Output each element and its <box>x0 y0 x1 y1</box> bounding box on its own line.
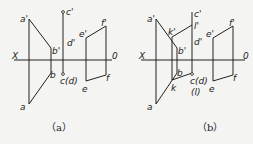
label-f-prime-a: f' <box>101 18 107 28</box>
label-a-prime-b: a' <box>147 14 155 24</box>
label-b-a: b <box>50 70 56 80</box>
panel-b: X 0 a' a k' k b' b c' l' d' c(d) (l) e' … <box>138 9 249 133</box>
label-cd-a: c(d) <box>60 76 78 86</box>
projection-diagram: X 0 a' a b' b c' d' c(d) e' e f' f （a） X… <box>0 0 253 144</box>
line-a-prime-b-prime <box>29 19 51 48</box>
label-f-b: f <box>233 73 238 83</box>
caption-b: （b） <box>197 122 223 133</box>
label-k-b: k <box>171 83 177 93</box>
label-b-b: b <box>177 68 183 78</box>
point-cd <box>62 73 65 76</box>
label-a-a: a <box>20 102 26 112</box>
diagram-svg: X 0 a' a b' b c' d' c(d) e' e f' f （a） X… <box>0 0 253 144</box>
point-c-prime <box>62 11 65 14</box>
label-e-a: e <box>82 84 88 94</box>
line-ab <box>29 73 51 104</box>
quad-ef-b <box>213 26 233 81</box>
quad-ef <box>86 26 106 81</box>
label-k-prime-b: k' <box>168 27 176 37</box>
axis-0-label-a: 0 <box>112 51 118 61</box>
axis-x-label-a: X <box>11 51 19 61</box>
axis-0-label-b: 0 <box>243 51 249 61</box>
label-b-prime-a: b' <box>52 46 60 56</box>
label-l-b: (l) <box>191 87 201 97</box>
label-d-prime-b: d' <box>194 37 202 47</box>
label-e-b: e <box>209 84 215 94</box>
label-c-prime-a: c' <box>66 7 73 17</box>
label-l-prime-b: l' <box>194 21 199 31</box>
label-f-prime-b: f' <box>229 18 235 28</box>
axis-x-label-b: X <box>138 51 146 61</box>
label-d-prime-a: d' <box>67 38 75 48</box>
label-e-prime-b: e' <box>206 29 214 39</box>
point-cd-b <box>191 73 194 76</box>
label-f-a: f <box>106 73 111 83</box>
panel-a: X 0 a' a b' b c' d' c(d) e' e f' f （a） <box>11 7 118 133</box>
label-c-prime-b: c' <box>194 9 201 19</box>
caption-a: （a） <box>46 122 72 133</box>
label-a-prime-a: a' <box>20 14 28 24</box>
label-a-b: a <box>147 102 153 112</box>
label-cd-b: c(d) <box>190 76 208 86</box>
label-e-prime-a: e' <box>79 29 87 39</box>
label-b-prime-b: b' <box>178 46 186 56</box>
